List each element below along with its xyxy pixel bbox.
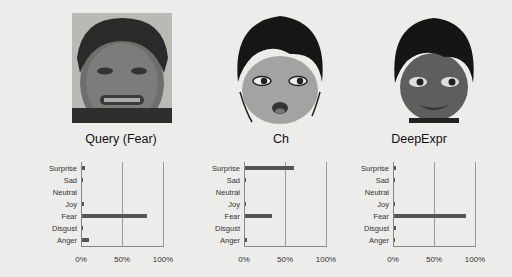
category-label: Neutral bbox=[180, 188, 240, 197]
category-label: Fear bbox=[17, 212, 77, 221]
3d-cartoon-face-icon bbox=[389, 15, 479, 123]
x-tick-label: 0% bbox=[75, 255, 87, 264]
ch-cartoon-face bbox=[230, 12, 330, 124]
cartoon-face-icon bbox=[230, 12, 330, 124]
category-label: Anger bbox=[329, 236, 389, 245]
human-face-icon bbox=[72, 13, 172, 123]
x-tick-label: 50% bbox=[426, 255, 442, 264]
category-label: Surprise bbox=[17, 164, 77, 173]
bar-joy bbox=[82, 202, 84, 206]
panel-caption: Query (Fear) bbox=[85, 132, 157, 146]
bar-surprise bbox=[82, 166, 85, 170]
bar-anger bbox=[245, 238, 247, 242]
bar-sad bbox=[82, 178, 83, 182]
category-label: Joy bbox=[17, 200, 77, 209]
bar-sad bbox=[394, 178, 395, 182]
category-label: Surprise bbox=[180, 164, 240, 173]
bar-chart-plot bbox=[393, 162, 476, 247]
gridline bbox=[285, 162, 286, 246]
bar-anger bbox=[394, 238, 395, 242]
category-label: Sad bbox=[329, 176, 389, 185]
category-label: Sad bbox=[180, 176, 240, 185]
category-label: Sad bbox=[17, 176, 77, 185]
category-label: Fear bbox=[180, 212, 240, 221]
x-tick-label: 100% bbox=[153, 255, 173, 264]
x-tick-label: 50% bbox=[277, 255, 293, 264]
bar-chart-plot bbox=[244, 162, 327, 247]
gridline bbox=[122, 162, 123, 246]
category-label: Neutral bbox=[17, 188, 77, 197]
category-label: Disgust bbox=[17, 224, 77, 233]
bar-joy bbox=[245, 202, 246, 206]
panel-caption: Ch bbox=[273, 132, 289, 146]
gridline bbox=[163, 162, 164, 246]
panel-caption: DeepExpr bbox=[391, 132, 447, 146]
x-tick-label: 0% bbox=[387, 255, 399, 264]
category-label: Disgust bbox=[329, 224, 389, 233]
category-label: Disgust bbox=[180, 224, 240, 233]
gridline bbox=[434, 162, 435, 246]
x-tick-label: 50% bbox=[114, 255, 130, 264]
category-label: Joy bbox=[180, 200, 240, 209]
gridline bbox=[475, 162, 476, 246]
category-label: Fear bbox=[329, 212, 389, 221]
x-tick-label: 100% bbox=[316, 255, 336, 264]
category-label: Anger bbox=[180, 236, 240, 245]
bar-sad bbox=[245, 178, 246, 182]
bar-joy bbox=[394, 202, 395, 206]
bar-disgust bbox=[82, 226, 83, 230]
query-face-photo bbox=[72, 13, 172, 123]
category-label: Neutral bbox=[329, 188, 389, 197]
bar-disgust bbox=[394, 226, 396, 230]
bar-surprise bbox=[245, 166, 294, 170]
deepexpr-cartoon-face bbox=[389, 15, 479, 123]
bar-fear bbox=[82, 214, 147, 218]
category-label: Anger bbox=[17, 236, 77, 245]
bar-fear bbox=[245, 214, 272, 218]
x-tick-label: 100% bbox=[465, 255, 485, 264]
bar-anger bbox=[82, 238, 89, 242]
bar-surprise bbox=[394, 166, 396, 170]
category-label: Surprise bbox=[329, 164, 389, 173]
x-tick-label: 0% bbox=[238, 255, 250, 264]
category-label: Joy bbox=[329, 200, 389, 209]
bar-chart-plot bbox=[81, 162, 164, 247]
gridline bbox=[326, 162, 327, 246]
bar-fear bbox=[394, 214, 466, 218]
